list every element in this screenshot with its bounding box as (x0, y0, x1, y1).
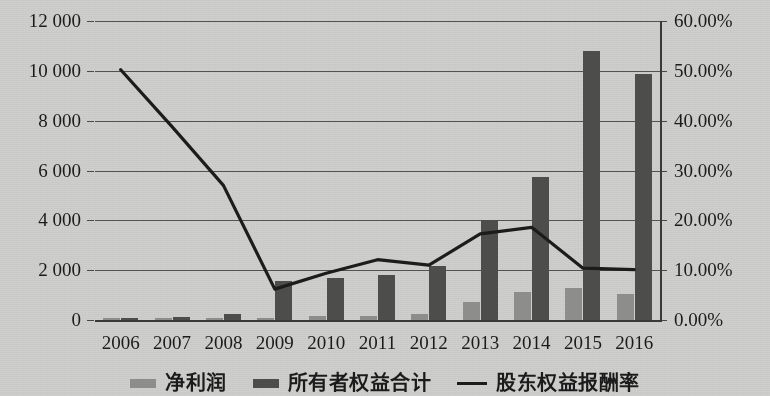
legend-label-total-equity: 所有者权益合计 (288, 373, 432, 393)
legend-item-net-profit[interactable]: 净利润 (130, 373, 227, 393)
x-axis-tick-label: 2008 (198, 333, 249, 352)
legend-item-total-equity[interactable]: 所有者权益合计 (253, 373, 432, 393)
x-axis-tick-label: 2012 (403, 333, 454, 352)
x-axis-tick-label: 2016 (609, 333, 660, 352)
x-axis-tick-label: 2007 (146, 333, 197, 352)
x-axis-tick-label: 2015 (557, 333, 608, 352)
legend-label-net-profit: 净利润 (165, 373, 227, 393)
secondary-y-axis-line (660, 21, 662, 322)
x-axis-line (95, 320, 661, 322)
legend-swatch-net-profit (130, 379, 156, 388)
x-axis-tick-label: 2011 (352, 333, 403, 352)
x-axis-tick-label: 2006 (95, 333, 146, 352)
legend-label-roe: 股东权益报酬率 (496, 373, 640, 393)
legend-swatch-total-equity (253, 379, 279, 388)
x-axis-tick-label: 2014 (506, 333, 557, 352)
legend-item-roe[interactable]: 股东权益报酬率 (457, 373, 640, 393)
x-axis-tick-label: 2010 (300, 333, 351, 352)
x-axis-tick-label: 2009 (249, 333, 300, 352)
legend-swatch-roe (457, 382, 487, 385)
x-axis-tick-label: 2013 (455, 333, 506, 352)
chart-legend: 净利润 所有者权益合计 股东权益报酬率 (0, 370, 770, 396)
combo-chart: 02 0004 0006 0008 00010 00012 000 0.00%1… (0, 0, 770, 396)
